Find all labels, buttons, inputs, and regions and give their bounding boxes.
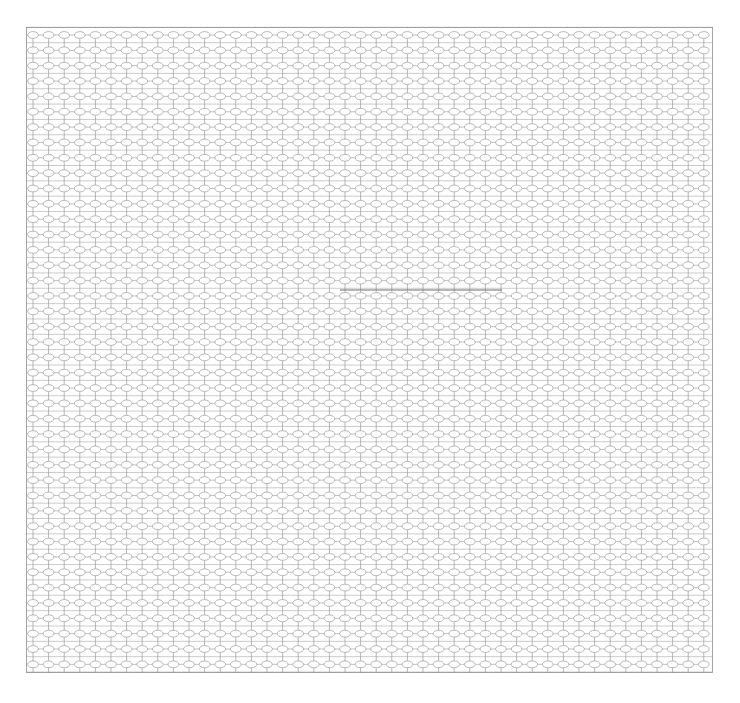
graph-node: [605, 339, 616, 346]
graph-node: [43, 139, 54, 146]
graph-node: [683, 600, 694, 607]
graph-node: [74, 492, 85, 499]
graph-node: [28, 600, 39, 607]
graph-node: [168, 446, 179, 453]
graph-node: [418, 32, 429, 39]
graph-node: [106, 569, 117, 576]
graph-node: [277, 277, 288, 284]
graph-node: [121, 461, 132, 468]
graph-node: [28, 262, 39, 269]
graph-node: [418, 646, 429, 653]
graph-node: [137, 154, 148, 161]
graph-node: [386, 139, 397, 146]
graph-node: [402, 32, 413, 39]
graph-node: [59, 154, 70, 161]
graph-node: [355, 154, 366, 161]
graph-node: [293, 600, 304, 607]
graph-node: [480, 630, 491, 637]
graph-node: [90, 154, 101, 161]
graph-node: [667, 477, 678, 484]
graph-node: [620, 584, 631, 591]
graph-node: [293, 492, 304, 499]
graph-node: [698, 47, 709, 54]
graph-node: [652, 554, 663, 561]
graph-node: [355, 323, 366, 330]
graph-node: [340, 385, 351, 392]
graph-node: [589, 231, 600, 238]
graph-node: [698, 277, 709, 284]
graph-node: [589, 523, 600, 530]
graph-node: [698, 385, 709, 392]
graph-node: [121, 185, 132, 192]
graph-node: [215, 247, 226, 254]
graph-node: [418, 492, 429, 499]
graph-node: [667, 216, 678, 223]
graph-node: [402, 477, 413, 484]
graph-node: [558, 293, 569, 300]
graph-node: [168, 615, 179, 622]
graph-node: [215, 415, 226, 422]
graph-node: [340, 32, 351, 39]
graph-node: [137, 185, 148, 192]
graph-node: [667, 400, 678, 407]
graph-node: [464, 554, 475, 561]
graph-node: [121, 170, 132, 177]
graph-node: [636, 554, 647, 561]
graph-node: [449, 124, 460, 131]
graph-node: [340, 507, 351, 514]
graph-node: [184, 293, 195, 300]
graph-node: [137, 231, 148, 238]
graph-node: [106, 293, 117, 300]
graph-node: [667, 385, 678, 392]
graph-node: [433, 523, 444, 530]
graph-node: [698, 584, 709, 591]
graph-node: [199, 554, 210, 561]
graph-node: [652, 170, 663, 177]
graph-node: [137, 538, 148, 545]
graph-node: [137, 646, 148, 653]
graph-node: [620, 47, 631, 54]
graph-node: [121, 523, 132, 530]
graph-node: [59, 277, 70, 284]
graph-node: [168, 400, 179, 407]
graph-node: [371, 400, 382, 407]
graph-node: [277, 615, 288, 622]
graph-node: [542, 600, 553, 607]
graph-node: [589, 139, 600, 146]
graph-node: [620, 32, 631, 39]
graph-node: [480, 216, 491, 223]
graph-node: [246, 308, 257, 315]
graph-node: [74, 369, 85, 376]
graph-node: [683, 415, 694, 422]
graph-node: [308, 293, 319, 300]
graph-node: [74, 538, 85, 545]
graph-node: [74, 385, 85, 392]
graph-node: [293, 661, 304, 668]
graph-node: [418, 93, 429, 100]
graph-node: [636, 124, 647, 131]
graph-node: [511, 538, 522, 545]
graph-node: [215, 78, 226, 85]
graph-node: [667, 538, 678, 545]
graph-node: [184, 323, 195, 330]
graph-node: [262, 646, 273, 653]
graph-node: [527, 431, 538, 438]
graph-node: [43, 630, 54, 637]
graph-node: [106, 538, 117, 545]
graph-node: [480, 108, 491, 115]
graph-node: [480, 47, 491, 54]
graph-node: [371, 538, 382, 545]
graph-node: [371, 415, 382, 422]
graph-node: [652, 154, 663, 161]
graph-node: [308, 446, 319, 453]
graph-node: [667, 554, 678, 561]
graph-node: [246, 277, 257, 284]
graph-node: [90, 247, 101, 254]
graph-node: [262, 630, 273, 637]
graph-node: [293, 431, 304, 438]
graph-node: [230, 538, 241, 545]
graph-node: [293, 47, 304, 54]
graph-node: [184, 262, 195, 269]
graph-node: [184, 415, 195, 422]
graph-node: [542, 523, 553, 530]
